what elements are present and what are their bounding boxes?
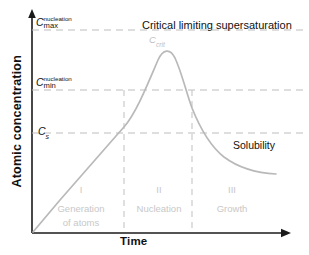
cmax-base: C: [36, 16, 44, 28]
stage-label-generation-of-atoms: I Generation of atoms: [38, 183, 124, 229]
stage-2-roman: II: [126, 183, 192, 197]
c-crit-base: C: [149, 34, 156, 45]
cmin-base: C: [36, 76, 44, 88]
y-tick-label-cmax: Cnucleationmax: [36, 16, 72, 30]
y-axis-title: Atomic concentration: [11, 41, 24, 201]
stage-label-nucleation: II Nucleation: [126, 183, 192, 216]
stage-1-name-line2: of atoms: [63, 217, 99, 228]
cmax-script-stack: nucleationmax: [44, 16, 72, 30]
c-crit-subscript: crit: [156, 41, 165, 48]
c-crit-annotation: Ccrit: [149, 35, 165, 48]
stage-3-roman: III: [194, 183, 270, 197]
x-axis-title: Time: [120, 236, 147, 248]
cmin-script-stack: nucleationmin: [44, 76, 72, 90]
critical-supersaturation-label: Critical limiting supersaturation: [142, 20, 292, 31]
stage-1-roman: I: [38, 183, 124, 197]
lamer-diagram-figure: Cnucleationmax Cnucleationmin Cs Ccrit C…: [0, 0, 309, 255]
solubility-label: Solubility: [233, 140, 275, 151]
y-tick-label-cs: Cs: [38, 126, 49, 139]
stage-1-name-line1: Generation: [57, 203, 104, 214]
y-axis-arrowhead: [28, 9, 36, 18]
x-axis-arrowhead: [281, 229, 291, 237]
cmax-subscript: max: [44, 22, 72, 30]
stage-label-growth: III Growth: [194, 183, 270, 216]
y-tick-label-cmin: Cnucleationmin: [36, 76, 72, 90]
stage-3-name-line1: Growth: [217, 203, 248, 214]
cs-subscript: s: [46, 133, 50, 140]
cs-base: C: [38, 125, 46, 137]
stage-2-name-line1: Nucleation: [137, 203, 182, 214]
cmin-subscript: min: [44, 82, 72, 90]
